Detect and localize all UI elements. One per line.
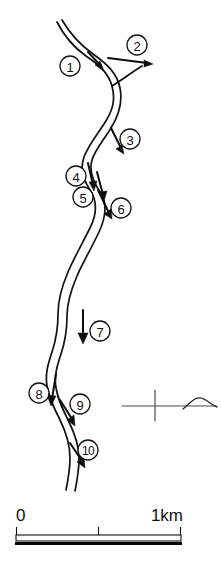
flow-arrow-2-head (144, 60, 153, 67)
marker-4-label: 4 (72, 170, 79, 185)
marker-9-label: 9 (76, 398, 83, 413)
river-map-figure: 1 2 3 4 5 6 7 8 (0, 0, 221, 574)
marker-3[interactable]: 3 (120, 129, 140, 149)
marker-7[interactable]: 7 (90, 321, 110, 341)
flow-arrow-group-7 (78, 310, 88, 344)
marker-6[interactable]: 6 (111, 198, 131, 218)
marker-6-label: 6 (117, 202, 124, 217)
marker-10-label: 10 (82, 444, 95, 458)
marker-3-label: 3 (126, 133, 133, 148)
marker-5-label: 5 (79, 191, 86, 206)
marker-8-label: 8 (35, 387, 42, 402)
marker-7-label: 7 (96, 325, 103, 340)
river-bank-left (46, 22, 113, 490)
map-canvas: 1 2 3 4 5 6 7 8 (0, 0, 221, 574)
flow-arrow-2-shaft (108, 58, 147, 63)
river-branch (112, 66, 142, 86)
inset-landform-shape (183, 398, 217, 409)
river-channel (46, 20, 142, 491)
scale-bar-right-label: 1km (151, 506, 183, 525)
flow-arrow-7-head (78, 333, 88, 344)
scale-bar-left-label: 0 (16, 506, 25, 525)
marker-10[interactable]: 10 (78, 440, 98, 460)
marker-5[interactable]: 5 (73, 187, 93, 207)
marker-1[interactable]: 1 (60, 56, 80, 76)
marker-4[interactable]: 4 (66, 166, 86, 186)
inset-index-sketch (122, 390, 217, 421)
marker-8[interactable]: 8 (29, 383, 49, 403)
river-bank-right (55, 20, 121, 491)
scale-bar: 0 1km (15, 506, 183, 544)
marker-2[interactable]: 2 (127, 35, 147, 55)
scale-bar-body (16, 535, 181, 541)
marker-1-label: 1 (66, 60, 73, 75)
flow-arrow-group-2 (108, 58, 153, 67)
marker-9[interactable]: 9 (70, 394, 90, 414)
marker-2-label: 2 (133, 39, 140, 54)
